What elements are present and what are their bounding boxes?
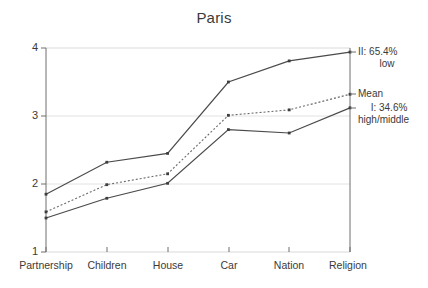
y-tick-label-2: 2 xyxy=(20,177,38,189)
series-line-mean xyxy=(46,94,350,212)
x-axis-ticks xyxy=(46,247,350,252)
data-point xyxy=(288,132,291,135)
chart-container: Paris xyxy=(0,0,428,288)
legend-entry-low: I: 34.6% high/middle xyxy=(358,102,420,126)
data-point xyxy=(166,172,169,175)
x-tick-label-children: Children xyxy=(87,259,126,271)
data-point xyxy=(105,197,108,200)
gridlines xyxy=(46,48,350,252)
y-axis-ticks xyxy=(41,48,46,252)
legend-entry-high: II: 65.4% low xyxy=(358,46,416,70)
x-tick-label-house: House xyxy=(153,259,183,271)
legend-entry-mean: Mean xyxy=(358,88,383,100)
legend-label-high-line1: II: 65.4% xyxy=(358,46,397,57)
series-markers-high xyxy=(45,51,352,196)
data-point xyxy=(105,161,108,164)
y-tick-label-4: 4 xyxy=(20,41,38,53)
chart-plot-area xyxy=(0,0,428,288)
series-line-low xyxy=(46,108,350,218)
data-point xyxy=(227,81,230,84)
series-group xyxy=(45,51,352,220)
axes xyxy=(46,48,350,252)
legend-connector-ticks xyxy=(350,52,356,108)
data-point xyxy=(45,210,48,213)
data-point xyxy=(45,193,48,196)
x-tick-label-partnership: Partnership xyxy=(19,259,73,271)
legend-label-low-line2: high/middle xyxy=(358,114,420,126)
x-tick-label-religion: Religion xyxy=(329,259,367,271)
y-tick-label-1: 1 xyxy=(20,245,38,257)
series-markers-mean xyxy=(45,93,352,213)
data-point xyxy=(227,128,230,131)
data-point xyxy=(288,108,291,111)
data-point xyxy=(105,183,108,186)
x-tick-label-nation: Nation xyxy=(274,259,304,271)
data-point xyxy=(227,114,230,117)
data-point xyxy=(45,217,48,220)
legend-label-high-line2: low xyxy=(358,58,416,70)
data-point xyxy=(166,152,169,155)
series-line-high xyxy=(46,52,350,194)
legend-label-mean-line1: Mean xyxy=(358,88,383,99)
series-markers-low xyxy=(45,106,352,219)
x-tick-label-car: Car xyxy=(221,259,238,271)
data-point xyxy=(288,60,291,63)
y-tick-label-3: 3 xyxy=(20,109,38,121)
data-point xyxy=(166,182,169,185)
legend-label-low-line1: I: 34.6% xyxy=(358,102,420,114)
